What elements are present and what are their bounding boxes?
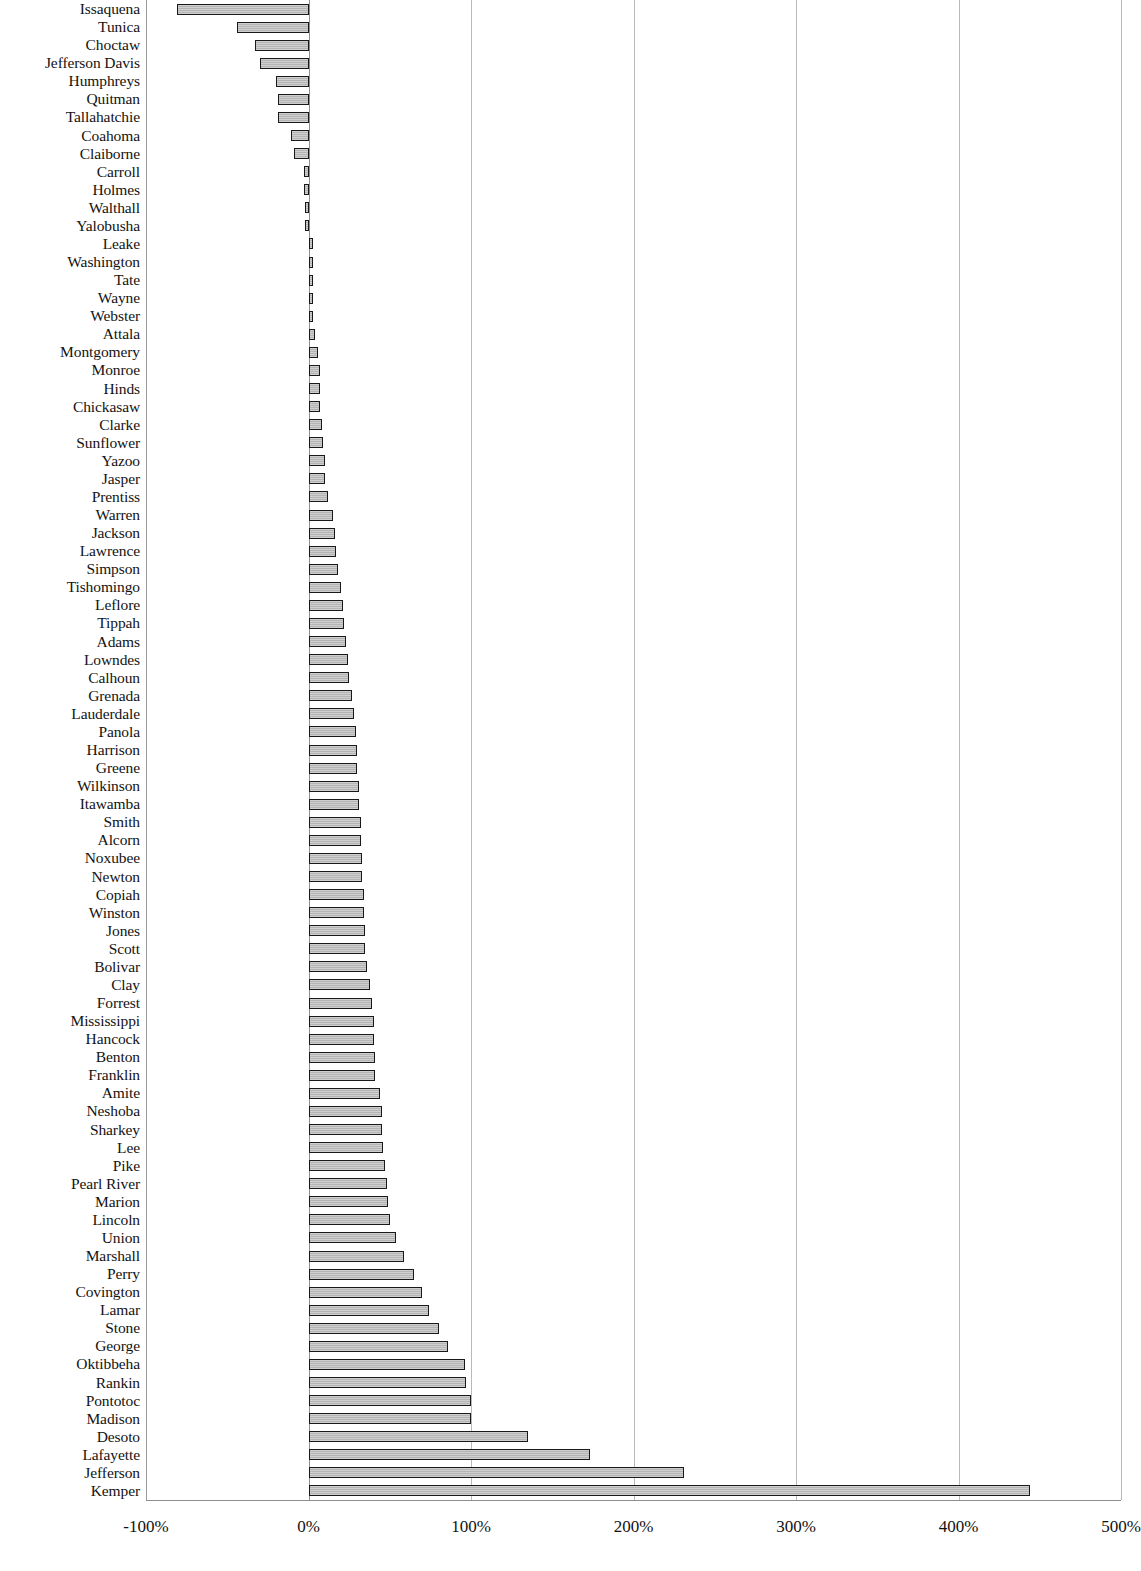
bar bbox=[309, 419, 322, 430]
bar bbox=[255, 40, 309, 51]
bar bbox=[309, 925, 366, 936]
x-tick-label: 500% bbox=[1101, 1516, 1141, 1538]
category-label: Calhoun bbox=[0, 669, 140, 686]
category-label: Choctaw bbox=[0, 36, 140, 53]
category-label: Jackson bbox=[0, 524, 140, 541]
category-label: Lawrence bbox=[0, 542, 140, 559]
bar bbox=[309, 1052, 376, 1063]
bar bbox=[309, 329, 316, 340]
bar bbox=[309, 1070, 376, 1081]
bar bbox=[309, 817, 361, 828]
bar bbox=[276, 76, 309, 87]
bar bbox=[309, 365, 320, 376]
category-label: Jefferson bbox=[0, 1464, 140, 1481]
bar bbox=[309, 672, 350, 683]
x-tick-label: 300% bbox=[776, 1516, 816, 1538]
x-tick-label: 0% bbox=[297, 1516, 320, 1538]
category-label: Yazoo bbox=[0, 452, 140, 469]
bar bbox=[309, 582, 342, 593]
category-label: Yalobusha bbox=[0, 217, 140, 234]
category-label: Carroll bbox=[0, 163, 140, 180]
bar bbox=[309, 745, 358, 756]
bar bbox=[309, 1196, 389, 1207]
bar bbox=[309, 618, 345, 629]
category-label: Bolivar bbox=[0, 958, 140, 975]
gridline-200 bbox=[634, 0, 635, 1500]
category-label: Lauderdale bbox=[0, 705, 140, 722]
bar bbox=[278, 94, 309, 105]
category-label: Warren bbox=[0, 506, 140, 523]
category-label: Simpson bbox=[0, 560, 140, 577]
category-label: Montgomery bbox=[0, 343, 140, 360]
category-label: Panola bbox=[0, 723, 140, 740]
category-label: Lincoln bbox=[0, 1211, 140, 1228]
bar bbox=[309, 1395, 472, 1406]
bar bbox=[309, 437, 324, 448]
bar bbox=[309, 1323, 439, 1334]
bar bbox=[309, 871, 363, 882]
bar bbox=[309, 781, 359, 792]
bar bbox=[237, 22, 309, 33]
bar bbox=[309, 1160, 385, 1171]
category-label: Hancock bbox=[0, 1030, 140, 1047]
category-label: Scott bbox=[0, 940, 140, 957]
bar bbox=[309, 1106, 382, 1117]
category-label: Pearl River bbox=[0, 1175, 140, 1192]
category-label: Pike bbox=[0, 1157, 140, 1174]
category-label: Quitman bbox=[0, 90, 140, 107]
gridline-400 bbox=[959, 0, 960, 1500]
bar bbox=[304, 166, 309, 177]
bar bbox=[304, 184, 309, 195]
bar bbox=[309, 961, 368, 972]
bar bbox=[309, 943, 366, 954]
category-label: Madison bbox=[0, 1410, 140, 1427]
category-label: Newton bbox=[0, 868, 140, 885]
bar bbox=[305, 220, 309, 231]
category-label: Copiah bbox=[0, 886, 140, 903]
category-label: Amite bbox=[0, 1084, 140, 1101]
category-label: Wilkinson bbox=[0, 777, 140, 794]
category-label: Grenada bbox=[0, 687, 140, 704]
bar bbox=[309, 564, 338, 575]
bar bbox=[309, 293, 313, 304]
bar bbox=[309, 1449, 590, 1460]
bar bbox=[278, 112, 309, 123]
bar bbox=[309, 1142, 384, 1153]
category-label: Greene bbox=[0, 759, 140, 776]
bar bbox=[305, 202, 309, 213]
bar bbox=[309, 979, 371, 990]
category-label: Issaquena bbox=[0, 0, 140, 17]
category-label: Attala bbox=[0, 325, 140, 342]
category-label: Neshoba bbox=[0, 1102, 140, 1119]
category-label: Tallahatchie bbox=[0, 108, 140, 125]
category-label: Leflore bbox=[0, 596, 140, 613]
bar bbox=[309, 1269, 415, 1280]
bar bbox=[309, 998, 372, 1009]
category-label: Sunflower bbox=[0, 434, 140, 451]
bar bbox=[291, 130, 309, 141]
category-label: Alcorn bbox=[0, 831, 140, 848]
bar bbox=[309, 528, 335, 539]
bar bbox=[309, 907, 364, 918]
category-label: Leake bbox=[0, 235, 140, 252]
category-axis-labels: IssaquenaTunicaChoctawJefferson DavisHum… bbox=[0, 0, 140, 1500]
bar bbox=[309, 1413, 472, 1424]
bar bbox=[309, 726, 356, 737]
bar bbox=[309, 835, 361, 846]
category-label: Coahoma bbox=[0, 127, 140, 144]
category-label: Smith bbox=[0, 813, 140, 830]
bar bbox=[309, 1485, 1031, 1496]
category-label: Rankin bbox=[0, 1374, 140, 1391]
bar bbox=[309, 636, 346, 647]
category-label: Oktibbeha bbox=[0, 1355, 140, 1372]
bar bbox=[309, 1359, 465, 1370]
category-label: Monroe bbox=[0, 361, 140, 378]
bar bbox=[309, 690, 353, 701]
category-label: Noxubee bbox=[0, 849, 140, 866]
category-label: Union bbox=[0, 1229, 140, 1246]
category-label: Benton bbox=[0, 1048, 140, 1065]
category-label: Harrison bbox=[0, 741, 140, 758]
category-label: Holmes bbox=[0, 181, 140, 198]
category-label: Pontotoc bbox=[0, 1392, 140, 1409]
bar bbox=[309, 1214, 390, 1225]
